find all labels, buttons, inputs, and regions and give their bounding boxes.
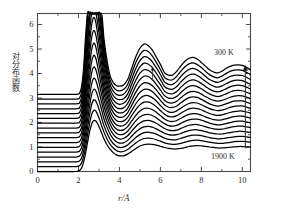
temperature-bottom-label: 1900 K	[211, 152, 235, 161]
x-tick-label: 6	[150, 175, 170, 185]
curve-series	[38, 67, 251, 147]
y-tick-label: 4	[14, 68, 34, 78]
temperature-top-label: 300 K	[214, 48, 234, 57]
x-tick-label: 4	[109, 175, 129, 185]
curve-series-group	[38, 11, 251, 171]
x-tick-label: 2	[68, 175, 88, 185]
x-tick-label: 8	[191, 175, 211, 185]
curve-series	[38, 12, 251, 104]
x-axis-label: r/Å	[118, 193, 130, 203]
y-tick-label: 2	[14, 117, 34, 127]
y-tick-label: 0	[14, 166, 34, 176]
y-tick-label: 6	[14, 19, 34, 29]
x-tick-label: 10	[232, 175, 252, 185]
pair-distribution-function-chart	[0, 0, 281, 218]
y-tick-label: 3	[14, 93, 34, 103]
y-tick-label: 5	[14, 44, 34, 54]
x-tick-label: 0	[28, 175, 48, 185]
y-tick-label: 1	[14, 142, 34, 152]
x-axis-label-text: r/Å	[118, 193, 130, 203]
curve-series	[38, 12, 251, 123]
